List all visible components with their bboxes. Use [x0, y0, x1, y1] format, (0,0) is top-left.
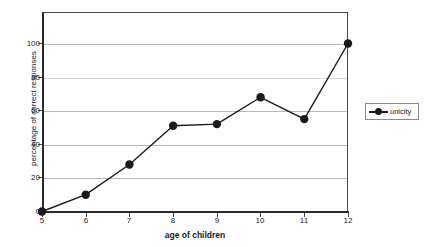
y-axis-line: [42, 12, 44, 213]
gridline-60: [43, 111, 347, 112]
x-tick-label-7: 7: [117, 216, 141, 226]
x-tick-label-6: 6: [74, 216, 98, 226]
legend-marker-icon: [369, 107, 388, 116]
legend-dot-icon: [375, 108, 382, 115]
gridline-20: [43, 178, 347, 179]
x-axis-title: age of children: [42, 230, 348, 240]
x-tick-label-8: 8: [161, 216, 185, 226]
y-axis-title: percentage of correct responses: [29, 24, 38, 194]
plot-area: [42, 12, 348, 212]
legend-label-unicity: unicity: [390, 107, 411, 116]
x-tick-label-9: 9: [205, 216, 229, 226]
x-tick-label-12: 12: [336, 216, 360, 226]
gridline-40: [43, 145, 347, 146]
x-axis-line: [42, 211, 349, 213]
legend: unicity: [365, 103, 419, 120]
gridline-80: [43, 78, 347, 79]
gridline-100: [43, 44, 347, 45]
x-tick-label-10: 10: [248, 216, 272, 226]
y-tick-label-0: 0: [6, 207, 40, 216]
chart-screenshot: 100 80 60 40 20 0 5 6 7 8 9 10 11 12 per…: [0, 0, 425, 247]
x-tick-label-5: 5: [30, 216, 54, 226]
x-tick-label-11: 11: [292, 216, 316, 226]
